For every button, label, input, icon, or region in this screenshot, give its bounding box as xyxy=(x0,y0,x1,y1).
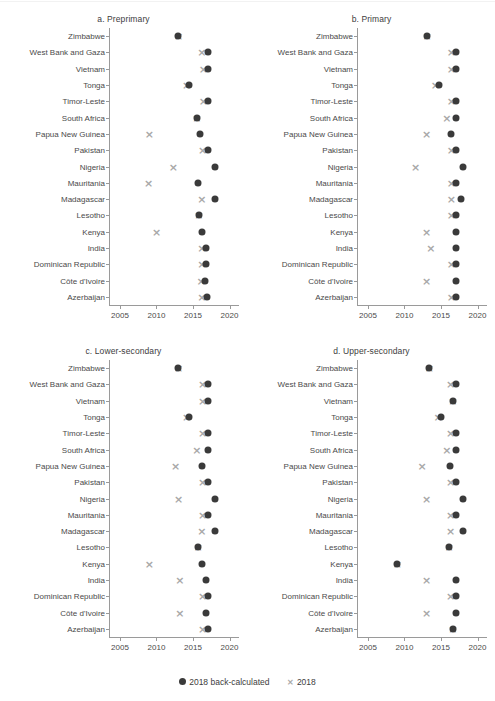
data-point-back-calculated xyxy=(452,576,459,583)
y-axis-label-pakistan: Pakistan xyxy=(322,478,353,487)
data-point-2018 xyxy=(174,494,183,503)
y-axis-label-madagascar: Madagascar xyxy=(309,195,353,204)
data-point-back-calculated xyxy=(203,293,210,300)
y-axis-tick xyxy=(354,629,357,630)
data-point-back-calculated xyxy=(452,430,459,437)
y-axis-label-madagascar: Madagascar xyxy=(309,527,353,536)
circle-marker-icon xyxy=(179,678,186,685)
data-point-back-calculated xyxy=(204,147,211,154)
legend: 2018 back-calculated ×2018 xyxy=(0,676,495,687)
x-axis-tick xyxy=(230,306,231,309)
y-axis-label-west-bank-and-gaza: West Bank and Gaza xyxy=(278,380,353,389)
y-axis-label-mauritania: Mauritania xyxy=(68,178,105,187)
y-axis-tick xyxy=(354,482,357,483)
data-point-2018 xyxy=(422,276,431,285)
data-point-back-calculated xyxy=(452,446,459,453)
y-axis-label-india: India xyxy=(88,575,105,584)
panel-lower-secondary: c. Lower-secondary ZimbabweWest Bank and… xyxy=(0,340,247,670)
data-point-back-calculated xyxy=(452,212,459,219)
y-axis-tick xyxy=(354,564,357,565)
data-point-back-calculated xyxy=(197,130,204,137)
y-axis-label-kenya: Kenya xyxy=(82,559,105,568)
y-axis-tick xyxy=(106,264,109,265)
y-axis-line xyxy=(357,360,358,637)
y-axis-tick xyxy=(354,499,357,500)
data-point-back-calculated xyxy=(459,495,466,502)
y-axis-tick xyxy=(354,466,357,467)
y-axis-label-zimbabwe: Zimbabwe xyxy=(68,364,105,373)
y-axis-tick xyxy=(354,150,357,151)
x-axis-tick-label: 2020 xyxy=(221,643,239,652)
y-axis-tick xyxy=(106,547,109,548)
x-axis-tick-label: 2005 xyxy=(359,643,377,652)
y-axis-label-lesotho: Lesotho xyxy=(325,543,353,552)
y-axis-label-mauritania: Mauritania xyxy=(68,510,105,519)
y-axis-tick xyxy=(354,215,357,216)
data-point-back-calculated xyxy=(452,609,459,616)
data-point-back-calculated xyxy=(193,114,200,121)
data-point-2018 xyxy=(144,178,153,187)
y-axis-tick xyxy=(354,134,357,135)
y-axis-tick xyxy=(354,264,357,265)
data-point-back-calculated xyxy=(204,381,211,388)
y-axis-label-madagascar: Madagascar xyxy=(61,527,105,536)
y-axis-labels-primary: ZimbabweWest Bank and GazaVietnamTongaTi… xyxy=(248,28,353,305)
data-point-back-calculated xyxy=(452,381,459,388)
data-point-back-calculated xyxy=(452,98,459,105)
data-point-back-calculated xyxy=(459,163,466,170)
data-point-2018 xyxy=(442,445,451,454)
x-axis-line xyxy=(109,637,239,638)
y-axis-label-pakistan: Pakistan xyxy=(74,146,105,155)
y-axis-tick xyxy=(106,297,109,298)
y-axis-tick xyxy=(106,118,109,119)
y-axis-label-azerbaijan: Azerbaijan xyxy=(67,292,105,301)
y-axis-tick xyxy=(106,564,109,565)
y-axis-tick xyxy=(106,150,109,151)
y-axis-label-west-bank-and-gaza: West Bank and Gaza xyxy=(30,48,105,57)
x-axis-tick xyxy=(193,638,194,641)
panel-upper-secondary: d. Upper-secondary ZimbabweWest Bank and… xyxy=(248,340,495,670)
y-axis-tick xyxy=(106,101,109,102)
y-axis-tick xyxy=(354,515,357,516)
data-point-back-calculated xyxy=(204,625,211,632)
x-axis-tick xyxy=(120,638,121,641)
x-axis-line xyxy=(109,305,239,306)
data-point-2018 xyxy=(447,195,456,204)
y-axis-label-papua-new-guinea: Papua New Guinea xyxy=(36,129,105,138)
data-point-2018 xyxy=(175,575,184,584)
legend-item-back-calculated: 2018 back-calculated xyxy=(179,676,269,687)
y-axis-tick xyxy=(106,215,109,216)
y-axis-tick xyxy=(354,531,357,532)
x-axis-tick-label: 2020 xyxy=(469,643,487,652)
y-axis-tick xyxy=(106,450,109,451)
plot-area-primary: 2005201020152020 xyxy=(357,28,487,305)
y-axis-label-lesotho: Lesotho xyxy=(77,211,105,220)
x-axis-tick-label: 2020 xyxy=(221,311,239,320)
y-axis-label-mauritania: Mauritania xyxy=(316,178,353,187)
data-point-back-calculated xyxy=(452,593,459,600)
data-point-2018 xyxy=(426,243,435,252)
y-axis-label-timor-leste: Timor-Leste xyxy=(311,429,353,438)
x-axis-tick xyxy=(478,638,479,641)
x-axis-tick-label: 2020 xyxy=(469,311,487,320)
data-point-back-calculated xyxy=(203,609,210,616)
x-axis-tick xyxy=(441,638,442,641)
data-point-back-calculated xyxy=(175,33,182,40)
y-axis-tick xyxy=(354,613,357,614)
y-axis-label-vietnam: Vietnam xyxy=(76,64,105,73)
data-point-2018 xyxy=(169,162,178,171)
data-point-back-calculated xyxy=(452,147,459,154)
data-point-back-calculated xyxy=(202,277,209,284)
y-axis-tick xyxy=(106,417,109,418)
x-axis-tick xyxy=(368,306,369,309)
y-axis-tick xyxy=(354,433,357,434)
x-axis-tick xyxy=(368,638,369,641)
y-axis-tick xyxy=(354,183,357,184)
data-point-back-calculated xyxy=(446,544,453,551)
y-axis-label-dominican-republic: Dominican Republic xyxy=(34,592,105,601)
y-axis-label-nigeria: Nigeria xyxy=(80,494,105,503)
data-point-back-calculated xyxy=(452,479,459,486)
data-point-2018 xyxy=(175,608,184,617)
y-axis-tick xyxy=(106,499,109,500)
x-axis-tick-label: 2015 xyxy=(184,643,202,652)
